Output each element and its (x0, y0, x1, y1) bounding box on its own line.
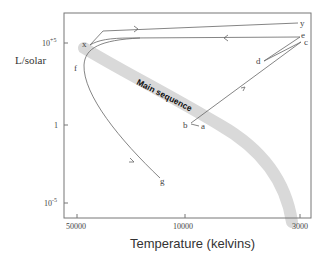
point-label-b: b (183, 120, 188, 130)
x-tick-label-50000: 50000 (66, 222, 86, 231)
svg-text:10+5: 10+5 (42, 37, 56, 48)
point-label-e: e (301, 30, 305, 40)
plot-frame (64, 13, 311, 218)
main-sequence-label: Main sequence (135, 77, 194, 114)
point-label-a: a (201, 121, 205, 131)
main-sequence-band (84, 48, 292, 222)
arrow-b-c (241, 87, 245, 91)
point-label-g: g (160, 176, 165, 186)
y-tick-label-1: 1 (54, 121, 58, 130)
arrow-f-g (129, 158, 134, 162)
track-x-y (90, 23, 298, 45)
arrow-e-x (224, 35, 228, 41)
point-label-f: f (74, 63, 77, 73)
y-tick-label-1e-5: 10-5 (44, 197, 57, 208)
track-d-e (264, 37, 300, 61)
x-axis-label: Temperature (kelvins) (130, 236, 255, 251)
track-e-x (90, 37, 300, 45)
y-tick-label-1e5: 10+5 (42, 37, 56, 48)
x-tick-label-10000: 10000 (173, 222, 193, 231)
arrow-x-y (134, 26, 138, 32)
point-label-d: d (256, 56, 261, 66)
svg-text:10-5: 10-5 (44, 197, 57, 208)
track-a-b (191, 124, 199, 126)
hr-diagram: a b c d e f g x y Main sequence 10+5 1 1… (0, 0, 328, 261)
y-axis-label: L/solar (15, 54, 46, 66)
point-label-y: y (300, 18, 305, 28)
point-label-x: x (82, 39, 87, 49)
x-tick-label-3000: 3000 (292, 222, 308, 231)
track-b-c (191, 42, 301, 123)
track-c-d (264, 42, 301, 61)
